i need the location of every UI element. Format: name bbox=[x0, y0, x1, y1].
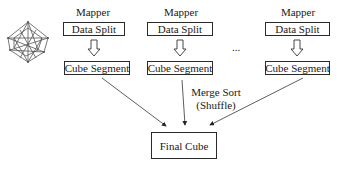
hollow-down-arrow-icon bbox=[174, 40, 186, 56]
arrow-right-to-final bbox=[210, 78, 303, 125]
hollow-down-arrow-icon bbox=[88, 40, 100, 56]
arrow-left-to-final bbox=[102, 78, 166, 126]
hollow-down-arrows bbox=[88, 40, 303, 56]
hollow-down-arrow-icon bbox=[291, 40, 303, 56]
arrows-layer bbox=[0, 0, 342, 169]
arrow-middle-to-final bbox=[182, 80, 185, 125]
